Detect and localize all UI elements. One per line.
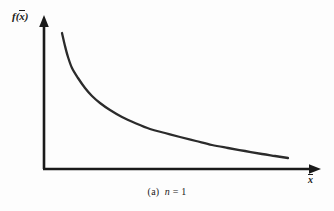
- caption-equals: = 1: [173, 186, 187, 197]
- caption-index: (a): [148, 186, 160, 197]
- x-axis-label-variable: x: [308, 174, 313, 185]
- y-axis-label-close-paren: ): [25, 10, 29, 22]
- figure-caption: (a) n = 1: [0, 186, 334, 198]
- x-axis: [43, 164, 321, 174]
- y-axis-arrowhead-icon: [39, 15, 49, 27]
- plot-area: [0, 0, 334, 211]
- y-axis: [39, 15, 49, 169]
- y-axis-label-variable: x: [19, 10, 25, 22]
- x-axis-arrowhead-icon: [309, 164, 321, 174]
- y-axis-label: f(x): [12, 10, 29, 22]
- x-axis-label: x: [308, 174, 313, 185]
- caption-variable: n: [165, 186, 170, 197]
- density-curve: [62, 33, 288, 158]
- figure-container: f(x) x (a) n = 1: [0, 0, 334, 211]
